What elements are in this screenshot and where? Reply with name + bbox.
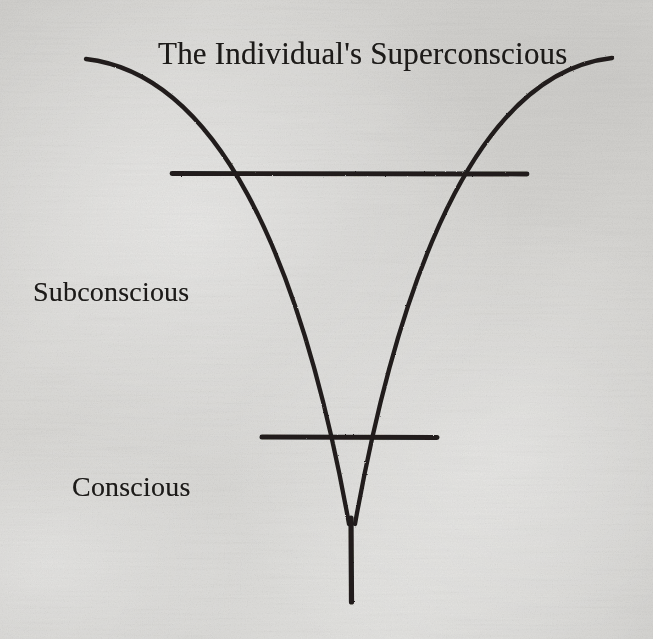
scanned-diagram-page: The Individual's Superconscious Subconsc… <box>0 0 653 639</box>
superconscious-funnel-diagram <box>0 0 653 639</box>
funnel-right-curve <box>355 58 612 524</box>
funnel-tail-line <box>351 518 352 602</box>
lower-divider-rule <box>262 437 437 438</box>
page-title: The Individual's Superconscious <box>158 36 568 72</box>
subconscious-label: Subconscious <box>33 276 189 308</box>
upper-divider-rule <box>172 174 527 175</box>
conscious-label: Conscious <box>72 471 190 503</box>
